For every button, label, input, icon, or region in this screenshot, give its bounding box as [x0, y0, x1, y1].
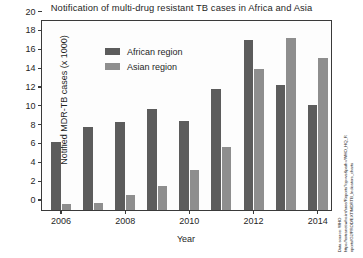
bar-african-2011	[211, 89, 221, 210]
bar-african-2007	[83, 127, 93, 210]
y-tick-0: 0	[30, 195, 42, 205]
x-tick-mark	[125, 210, 126, 214]
source-note-line-3: eports/G2/PROD/EXT/MDRTB_Indicators_char…	[350, 163, 354, 252]
legend-swatch-african	[105, 48, 120, 56]
y-tick-label: 0	[30, 195, 38, 205]
bar-asian-2012	[254, 69, 264, 210]
y-tick-label: 16	[25, 44, 38, 54]
y-tick-label: 20	[25, 7, 38, 17]
y-tick-mark	[38, 68, 42, 69]
y-tick-mark	[38, 181, 42, 182]
y-tick-mark	[38, 199, 42, 200]
x-tick-2010: 2010	[179, 210, 199, 226]
legend-label-asian: Asian region	[127, 62, 177, 72]
x-tick-label: 2010	[179, 216, 199, 226]
plot-area: Notified MDR-TB cases (x 1000) 024681012…	[41, 20, 331, 211]
y-tick-label: 2	[30, 176, 38, 186]
bar-african-2006	[51, 142, 61, 210]
y-tick-label: 12	[25, 82, 38, 92]
x-tick-2006: 2006	[51, 210, 71, 226]
bar-african-2009	[147, 109, 157, 210]
x-tick-mark	[317, 210, 318, 214]
x-axis-label: Year	[41, 234, 331, 244]
y-tick-label: 18	[25, 25, 38, 35]
x-tick-2008: 2008	[115, 210, 135, 226]
y-tick-8: 8	[30, 120, 42, 130]
y-tick-label: 4	[30, 157, 38, 167]
y-tick-10: 10	[25, 101, 42, 111]
bar-asian-2014	[318, 58, 328, 210]
bar-asian-2013	[286, 38, 296, 210]
chart-title: Notification of multi-drug resistant TB …	[0, 2, 363, 13]
legend-label-african: African region	[127, 47, 183, 57]
legend-item-african: African region	[105, 44, 183, 59]
source-note-line-1: Data source: WHO	[338, 218, 342, 252]
y-tick-mark	[38, 86, 42, 87]
y-tick-mark	[38, 162, 42, 163]
x-tick-2012: 2012	[243, 210, 263, 226]
bar-asian-2007	[94, 203, 104, 210]
y-tick-label: 14	[25, 63, 38, 73]
bar-african-2008	[115, 122, 125, 210]
y-tick-16: 16	[25, 44, 42, 54]
bar-asian-2009	[158, 186, 168, 210]
x-tick-label: 2012	[243, 216, 263, 226]
y-tick-18: 18	[25, 25, 42, 35]
y-tick-12: 12	[25, 82, 42, 92]
bar-african-2012	[244, 40, 254, 211]
y-tick-14: 14	[25, 63, 42, 73]
bar-asian-2006	[62, 204, 72, 210]
x-tick-label: 2008	[115, 216, 135, 226]
bar-asian-2011	[222, 147, 232, 210]
legend-swatch-asian	[105, 63, 120, 71]
source-note: Data source: WHO https://extranet.who.in…	[335, 0, 363, 258]
y-tick-mark	[38, 49, 42, 50]
y-tick-20: 20	[25, 7, 42, 17]
legend-item-asian: Asian region	[105, 59, 183, 74]
y-tick-mark	[38, 30, 42, 31]
x-tick-mark	[60, 210, 61, 214]
x-tick-mark	[189, 210, 190, 214]
y-tick-2: 2	[30, 176, 42, 186]
plot-frame-right-border	[331, 20, 332, 211]
y-tick-mark	[38, 105, 42, 106]
y-tick-mark	[38, 143, 42, 144]
y-tick-4: 4	[30, 157, 42, 167]
y-tick-mark	[38, 11, 42, 12]
source-note-line-2: https://extranet.who.int/sree/Reports?op…	[344, 135, 348, 252]
x-tick-mark	[253, 210, 254, 214]
y-tick-label: 6	[30, 138, 38, 148]
bar-asian-2010	[190, 170, 200, 210]
x-tick-label: 2006	[51, 216, 71, 226]
bar-african-2014	[308, 105, 318, 210]
bar-african-2010	[179, 121, 189, 210]
x-tick-2014: 2014	[308, 210, 328, 226]
legend: African region Asian region	[105, 44, 183, 74]
y-tick-label: 10	[25, 101, 38, 111]
y-tick-6: 6	[30, 138, 42, 148]
bar-asian-2008	[126, 195, 136, 210]
mdr-tb-bar-chart: Notification of multi-drug resistant TB …	[0, 0, 363, 258]
bar-african-2013	[276, 85, 286, 210]
y-tick-label: 8	[30, 120, 38, 130]
x-tick-label: 2014	[308, 216, 328, 226]
y-tick-mark	[38, 124, 42, 125]
